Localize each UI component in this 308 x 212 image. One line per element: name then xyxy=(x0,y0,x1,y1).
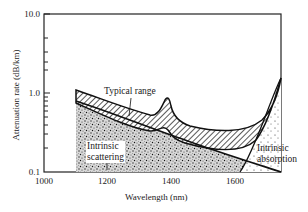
intrinsic-scattering-label: Intrinsic scattering xyxy=(86,141,125,163)
x-axis-label: Wavelength (nm) xyxy=(125,192,188,202)
x-tick-1600: 1600 xyxy=(220,176,250,186)
y-tick-10: 10.0 xyxy=(10,9,40,19)
absorption-label-line1: Intrinsic xyxy=(257,143,297,154)
y-tick-1: 1.0 xyxy=(10,88,40,98)
scattering-label-line2: scattering xyxy=(87,152,124,163)
typical-range-label: Typical range xyxy=(103,86,157,97)
absorption-label-line2: absorption xyxy=(257,154,297,165)
scattering-label-line1: Intrinsic xyxy=(87,141,124,152)
attenuation-chart: Attenuation rate (dB/km) 10.0 1.0 0.1 10… xyxy=(0,0,308,212)
x-tick-1200: 1200 xyxy=(92,176,122,186)
y-ticks xyxy=(44,14,50,148)
intrinsic-absorption-label: Intrinsic absorption xyxy=(256,143,298,165)
x-tick-1400: 1400 xyxy=(156,176,186,186)
x-tick-1000: 1000 xyxy=(29,176,59,186)
